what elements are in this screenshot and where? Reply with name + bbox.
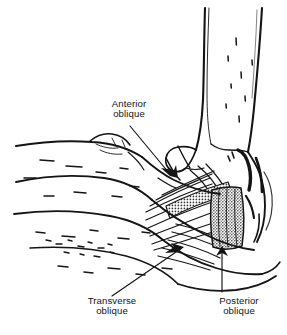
- label-transverse-oblique: Transverse oblique: [66, 296, 158, 317]
- leader-transverse: [112, 250, 179, 296]
- label-posterior-line2: oblique: [200, 306, 278, 316]
- humerus-shaft: [196, 8, 262, 152]
- label-anterior-line2: oblique: [96, 109, 162, 119]
- label-transverse-line2: oblique: [66, 306, 158, 316]
- bone-stipple-marks: [226, 38, 252, 122]
- label-anterior-oblique: Anterior oblique: [96, 99, 162, 120]
- anatomy-figure: Anterior oblique Transverse oblique Post…: [0, 0, 287, 335]
- leader-anterior: [130, 126, 169, 173]
- coronoid-detail: [158, 146, 204, 188]
- label-posterior-oblique: Posterior oblique: [200, 296, 278, 317]
- elbow-illustration: [0, 0, 287, 335]
